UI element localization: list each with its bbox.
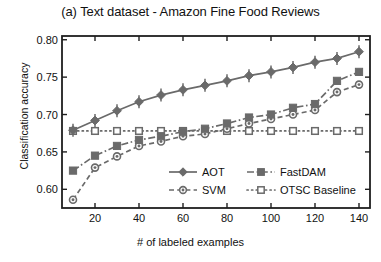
legend-item-aot[interactable]: AOT: [168, 163, 225, 180]
legend-swatch-diamond-icon: [168, 165, 198, 179]
legend-swatch-square-icon: [246, 165, 276, 179]
legend-label: OTSC Baseline: [280, 184, 356, 196]
legend-swatch-open-square-icon: [246, 183, 276, 197]
legend-item-svm[interactable]: SVM: [168, 181, 226, 198]
chart-figure: (a) Text dataset - Amazon Fine Food Revi…: [0, 0, 381, 262]
plot-area: [0, 0, 381, 262]
legend-item-otsc-baseline[interactable]: OTSC Baseline: [246, 181, 356, 198]
legend-label: FastDAM: [280, 166, 326, 178]
legend-item-fastdam[interactable]: FastDAM: [246, 163, 326, 180]
legend-swatch-circle-icon: [168, 183, 198, 197]
legend-label: SVM: [202, 184, 226, 196]
legend-label: AOT: [202, 166, 225, 178]
chart-legend: AOTFastDAMSVMOTSC Baseline: [168, 163, 358, 201]
series-aot: [69, 45, 364, 137]
